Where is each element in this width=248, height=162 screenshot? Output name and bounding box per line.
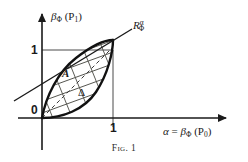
origin-tick-label: 0 bbox=[31, 104, 38, 116]
r-alpha-phi-label: RαΦ bbox=[133, 19, 144, 32]
figure-caption: Fig. 1 bbox=[0, 143, 248, 153]
x-tick-one-label: 1 bbox=[110, 122, 117, 134]
y-axis-paren-close: ) bbox=[78, 10, 82, 22]
x-axis-paren-close: ) bbox=[208, 125, 212, 137]
y-axis-beta-sub: Φ bbox=[56, 15, 61, 24]
lens-lower-arc bbox=[42, 40, 113, 118]
y-tick-one-label: 1 bbox=[31, 44, 38, 56]
y-axis-label: βΦ (P1) bbox=[51, 11, 82, 24]
x-axis-paren-open: (P bbox=[194, 125, 204, 137]
region-a-label: A bbox=[62, 68, 69, 79]
region-delta-label: Δ bbox=[78, 87, 85, 98]
x-axis-equals: = bbox=[169, 125, 181, 137]
x-axis-label: α = βΦ (P0) bbox=[163, 126, 211, 139]
figure-container: βΦ (P1) α = βΦ (P0) 1 0 1 RαΦ A Δ Fig. 1 bbox=[0, 0, 248, 162]
x-axis-beta-sub: Φ bbox=[186, 130, 191, 139]
r-label-subscript: Φ bbox=[139, 24, 144, 33]
